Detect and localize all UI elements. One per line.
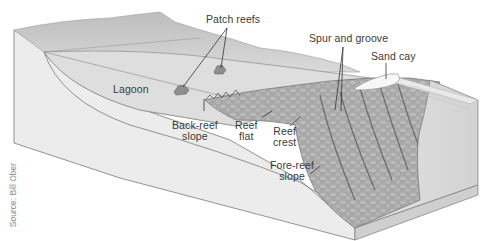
label-reef-crest: Reef crest: [273, 126, 296, 148]
label-reef-crest-line2: crest: [273, 137, 296, 148]
label-spur-and-groove: Spur and groove: [309, 33, 388, 44]
label-lagoon: Lagoon: [113, 84, 149, 95]
label-back-reef-slope-line2: slope: [172, 131, 218, 142]
reef-block-diagram: Patch reefs Spur and groove Sand cay Lag…: [0, 0, 494, 241]
source-credit: Source: Bill Ober: [8, 160, 18, 230]
label-reef-flat-line2: flat: [235, 131, 258, 142]
label-patch-reefs: Patch reefs: [206, 14, 260, 25]
label-reef-flat: Reef flat: [235, 120, 258, 142]
label-back-reef-slope: Back-reef slope: [172, 120, 218, 142]
label-fore-reef-slope: Fore-reef slope: [270, 160, 314, 182]
label-sand-cay: Sand cay: [371, 51, 416, 62]
label-fore-reef-slope-line2: slope: [270, 171, 314, 182]
